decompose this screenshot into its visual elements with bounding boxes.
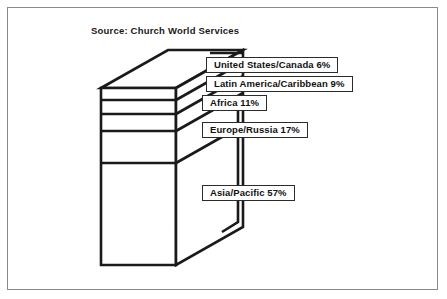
chart-page: Source: Church World Services <box>0 0 447 299</box>
callout-latin-america-caribbean: Latin America/Caribbean 9% <box>206 76 353 92</box>
callout-africa: Africa 11% <box>202 95 267 111</box>
callout-asia-pacific: Asia/Pacific 57% <box>202 185 295 201</box>
callout-europe-russia: Europe/Russia 17% <box>202 122 308 138</box>
stacked-bar-3d-figure <box>0 0 447 299</box>
callout-united-states-canada: United States/Canada 6% <box>206 57 338 73</box>
